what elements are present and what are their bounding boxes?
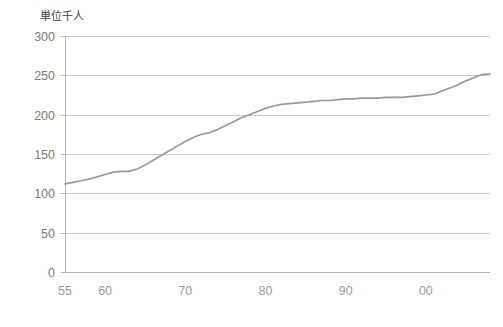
line-chart: 050100150200250300 556070809000 単位千人 — [0, 0, 503, 327]
y-tick-label: 150 — [34, 148, 55, 162]
x-tick-label: 80 — [259, 284, 273, 298]
y-tick-label: 50 — [41, 227, 55, 241]
y-tick-label: 100 — [34, 187, 55, 201]
y-tick-label: 0 — [48, 266, 55, 280]
chart-container: 050100150200250300 556070809000 単位千人 — [0, 0, 503, 327]
chart-background — [0, 0, 503, 327]
y-tick-label: 300 — [34, 30, 55, 44]
x-tick-label: 90 — [339, 284, 353, 298]
x-tick-label: 70 — [178, 284, 192, 298]
x-tick-label: 55 — [58, 284, 72, 298]
x-tick-label: 60 — [98, 284, 112, 298]
y-tick-label: 250 — [34, 69, 55, 83]
y-axis-unit-label: 単位千人 — [40, 9, 84, 23]
x-tick-label: 00 — [419, 284, 433, 298]
y-tick-label: 200 — [34, 109, 55, 123]
